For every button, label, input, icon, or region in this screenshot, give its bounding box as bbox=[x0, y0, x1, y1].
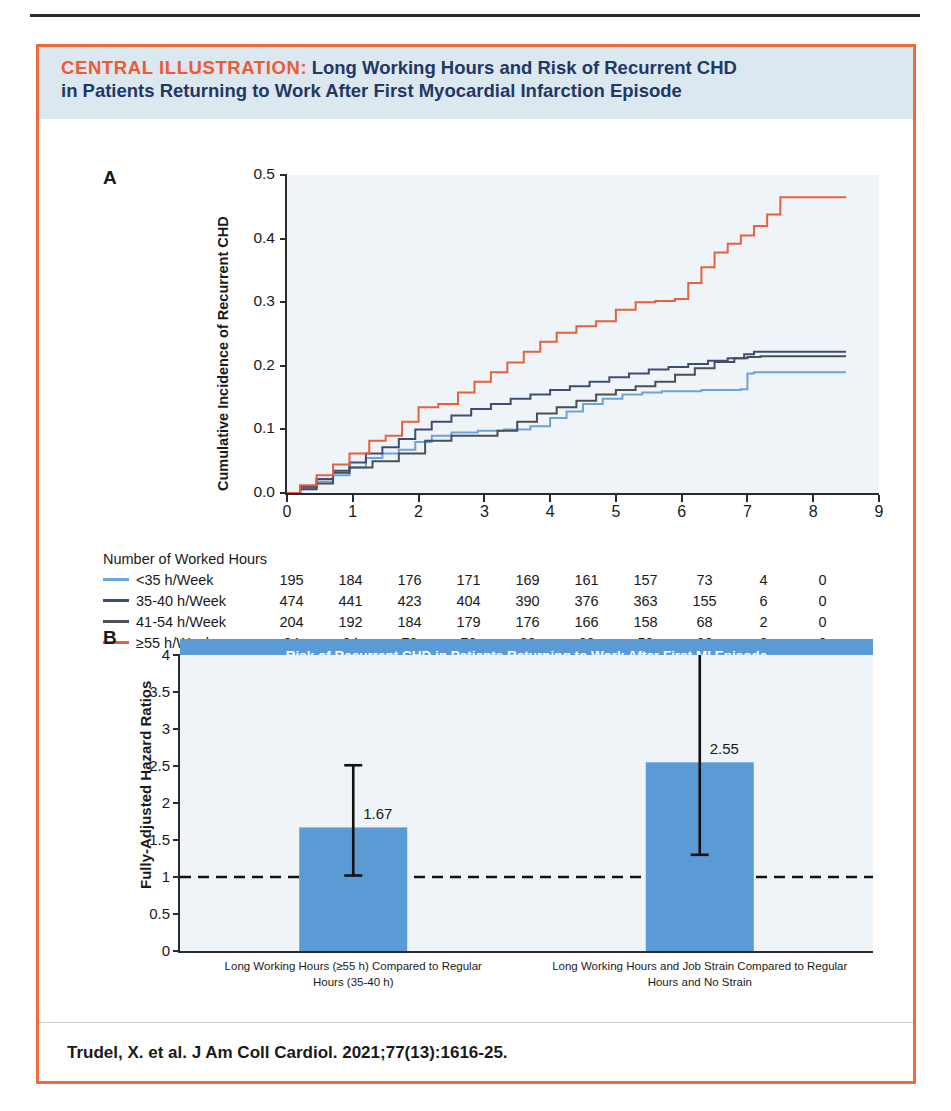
panel-b-category-label: Long Working Hours and Job Strain Compar… bbox=[530, 959, 870, 990]
figure-page: CENTRAL ILLUSTRATION: Long Working Hours… bbox=[0, 0, 951, 1111]
panel-a-x-tick-mark bbox=[615, 495, 617, 502]
risk-table-cell: 157 bbox=[616, 572, 675, 588]
panel-b-category-label: Long Working Hours (≥55 h) Compared to R… bbox=[183, 959, 523, 990]
panel-a-x-tick: 1 bbox=[338, 503, 368, 521]
panel-b-y-axis-title: Fully-Adjusted Hazard Ratios bbox=[137, 681, 154, 889]
panel-b-y-tick: 2 bbox=[134, 794, 170, 811]
panel-a-x-tick: 5 bbox=[601, 503, 631, 521]
panel-b-y-tick: 3.5 bbox=[134, 683, 170, 700]
panel-b-y-tick: 3 bbox=[134, 720, 170, 737]
panel-b-category-label-line: Long Working Hours and Job Strain Compar… bbox=[530, 959, 870, 975]
risk-table-title: Number of Worked Hours bbox=[103, 551, 903, 567]
panel-b-plot-area bbox=[180, 655, 873, 951]
km-curve--55-h-week bbox=[287, 197, 846, 493]
risk-table-cell: 169 bbox=[498, 572, 557, 588]
banner-tag: CENTRAL ILLUSTRATION: bbox=[61, 57, 307, 78]
panel-a-x-tick: 3 bbox=[469, 503, 499, 521]
panel-a-y-axis-line bbox=[285, 175, 287, 495]
panel-b-y-tick: 4 bbox=[134, 646, 170, 663]
banner-second-line: in Patients Returning to Work After Firs… bbox=[61, 80, 891, 103]
citation-divider bbox=[39, 1022, 913, 1023]
panel-b: B Risk of Recurrent CHD in Patients Retu… bbox=[39, 603, 913, 1023]
panel-a-x-tick-mark bbox=[681, 495, 683, 502]
panel-a-x-tick: 0 bbox=[272, 503, 302, 521]
panel-a-x-tick: 2 bbox=[404, 503, 434, 521]
panel-a-x-tick-mark bbox=[812, 495, 814, 502]
central-illustration-box: CENTRAL ILLUSTRATION: Long Working Hours… bbox=[36, 44, 916, 1084]
banner-title-line2: in Patients Returning to Work After Firs… bbox=[61, 80, 682, 101]
panel-a-x-tick: 9 bbox=[864, 503, 894, 521]
legend-line-swatch bbox=[103, 578, 129, 581]
panel-a-x-tick-mark bbox=[746, 495, 748, 502]
panel-b-category-label-line: Hours and No Strain bbox=[530, 975, 870, 991]
panel-a-x-tick-mark bbox=[286, 495, 288, 502]
hazard-ratio-value-label: 1.67 bbox=[363, 805, 392, 822]
risk-table-cell: 0 bbox=[793, 572, 852, 588]
panel-b-bars-and-error-bars bbox=[180, 655, 873, 951]
panel-a-y-tick: 0.4 bbox=[231, 229, 275, 247]
panel-a-y-tick: 0.2 bbox=[231, 356, 275, 374]
illustration-banner: CENTRAL ILLUSTRATION: Long Working Hours… bbox=[39, 47, 913, 119]
risk-table-row-label: <35 h/Week bbox=[136, 572, 254, 588]
panel-a-x-tick: 8 bbox=[798, 503, 828, 521]
panel-a: A Cumulative Incidence of Recurrent CHD … bbox=[39, 123, 913, 593]
panel-a-y-tick: 0.0 bbox=[231, 483, 275, 501]
panel-b-y-tick: 0.5 bbox=[134, 905, 170, 922]
risk-table-cell: 184 bbox=[321, 572, 380, 588]
panel-a-plot-area bbox=[287, 175, 879, 493]
citation-text: Trudel, X. et al. J Am Coll Cardiol. 202… bbox=[67, 1043, 508, 1063]
km-curve-41-54-h-week bbox=[287, 356, 846, 493]
panel-a-x-tick: 7 bbox=[732, 503, 762, 521]
panel-a-x-tick: 6 bbox=[667, 503, 697, 521]
panel-a-y-tick: 0.3 bbox=[231, 292, 275, 310]
risk-table-cell: 161 bbox=[557, 572, 616, 588]
panel-b-y-tick: 1 bbox=[134, 868, 170, 885]
panel-a-x-axis-line bbox=[287, 493, 879, 495]
banner-first-line: CENTRAL ILLUSTRATION: Long Working Hours… bbox=[61, 57, 891, 80]
panel-b-category-label-line: Hours (35-40 h) bbox=[183, 975, 523, 991]
panel-a-y-axis-title: Cumulative Incidence of Recurrent CHD bbox=[215, 216, 231, 491]
panel-a-x-tick-mark bbox=[549, 495, 551, 502]
panel-b-y-tick: 1.5 bbox=[134, 831, 170, 848]
legend-line-swatch bbox=[103, 599, 129, 602]
risk-table-cell: 73 bbox=[675, 572, 734, 588]
banner-title-line1: Long Working Hours and Risk of Recurrent… bbox=[312, 57, 737, 78]
panel-a-letter: A bbox=[103, 167, 117, 189]
panel-a-kaplan-meier-curves bbox=[287, 175, 879, 493]
panel-b-x-axis-line bbox=[180, 951, 873, 953]
risk-table-cell: 195 bbox=[262, 572, 321, 588]
panel-a-y-tick: 0.5 bbox=[231, 165, 275, 183]
panel-a-x-tick: 4 bbox=[535, 503, 565, 521]
hazard-ratio-value-label: 2.55 bbox=[710, 740, 739, 757]
panel-a-x-tick-mark bbox=[878, 495, 880, 502]
risk-table-row: <35 h/Week1951841761711691611577340 bbox=[103, 569, 903, 590]
panel-a-x-tick-mark bbox=[352, 495, 354, 502]
risk-table-cell: 176 bbox=[380, 572, 439, 588]
panel-b-category-label-line: Long Working Hours (≥55 h) Compared to R… bbox=[183, 959, 523, 975]
page-top-rule bbox=[30, 14, 920, 17]
panel-b-y-tick: 0 bbox=[134, 942, 170, 959]
panel-a-x-tick-mark bbox=[483, 495, 485, 502]
risk-table-cell: 171 bbox=[439, 572, 498, 588]
panel-a-y-tick: 0.1 bbox=[231, 419, 275, 437]
panel-b-y-axis-line bbox=[178, 655, 180, 953]
panel-b-y-tick: 2.5 bbox=[134, 757, 170, 774]
panel-b-letter: B bbox=[103, 627, 117, 649]
panel-a-x-tick-mark bbox=[418, 495, 420, 502]
risk-table-cell: 4 bbox=[734, 572, 793, 588]
